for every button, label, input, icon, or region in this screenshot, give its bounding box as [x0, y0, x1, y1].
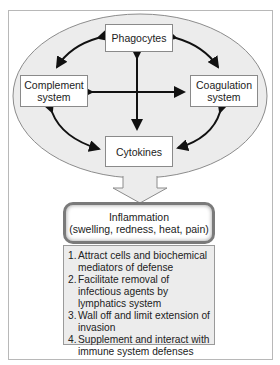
list-item: 3. Wall off and limit extension of invas… [68, 310, 212, 334]
list-item: 2. Facilitate removal of infectious agen… [68, 274, 212, 310]
list-item-number: 4. [68, 334, 78, 358]
node-complement-label-1: Complement [24, 79, 84, 91]
list-item-number: 3. [68, 310, 78, 334]
node-phagocytes: Phagocytes [105, 24, 173, 52]
list-item-text: Supplement and interact with immune syst… [78, 334, 212, 358]
list-item-number: 2. [68, 274, 78, 310]
node-coagulation-label-2: system [207, 91, 240, 103]
inflammation-subtitle: (swelling, redness, heat, pain) [69, 223, 209, 235]
functions-list-box: 1. Attract cells and biochemical mediato… [63, 245, 215, 345]
list-item-text: Attract cells and biochemical mediators … [78, 250, 212, 274]
node-cytokines-label: Cytokines [116, 146, 162, 158]
list-item-number: 1. [68, 250, 78, 274]
inflammation-title: Inflammation [109, 211, 169, 223]
node-cytokines: Cytokines [105, 136, 173, 167]
node-coagulation-label-1: Coagulation [196, 79, 252, 91]
functions-list: 1. Attract cells and biochemical mediato… [68, 250, 212, 358]
node-coagulation-system: Coagulation system [190, 75, 258, 107]
node-complement-system: Complement system [20, 75, 88, 107]
inflammation-box: Inflammation (swelling, redness, heat, p… [63, 202, 215, 244]
down-arrow-icon [113, 176, 167, 203]
list-item-text: Wall off and limit extension of invasion [78, 310, 212, 334]
list-item: 1. Attract cells and biochemical mediato… [68, 250, 212, 274]
node-phagocytes-label: Phagocytes [112, 32, 167, 44]
list-item: 4. Supplement and interact with immune s… [68, 334, 212, 358]
list-item-text: Facilitate removal of infectious agents … [78, 274, 212, 310]
node-complement-label-2: system [37, 91, 70, 103]
